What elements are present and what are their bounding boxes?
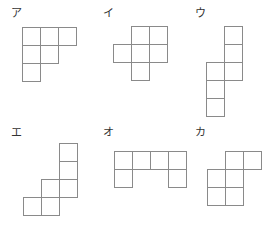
net-square bbox=[115, 170, 133, 188]
net-square bbox=[23, 64, 41, 82]
cube-net-5 bbox=[115, 152, 187, 188]
net-square bbox=[115, 152, 133, 170]
net-square bbox=[226, 188, 244, 206]
net-square bbox=[132, 27, 150, 45]
net-square bbox=[60, 144, 78, 162]
net-square bbox=[169, 170, 187, 188]
net-square bbox=[207, 99, 225, 117]
net-square bbox=[23, 28, 41, 46]
net-square bbox=[132, 45, 150, 63]
net-square bbox=[151, 152, 169, 170]
net-square bbox=[226, 152, 244, 170]
label-o: オ bbox=[103, 127, 114, 139]
net-square bbox=[60, 180, 78, 198]
net-square bbox=[59, 28, 77, 46]
net-square bbox=[41, 46, 59, 64]
net-square bbox=[150, 45, 168, 63]
net-square bbox=[244, 152, 262, 170]
label-u: ウ bbox=[195, 8, 206, 20]
label-ka: カ bbox=[195, 127, 206, 139]
net-square bbox=[133, 152, 151, 170]
net-square bbox=[226, 170, 244, 188]
label-e: エ bbox=[11, 127, 22, 139]
label-i: イ bbox=[103, 8, 114, 20]
net-square bbox=[23, 46, 41, 64]
cube-net-4 bbox=[24, 144, 78, 216]
net-square bbox=[225, 63, 243, 81]
net-square bbox=[150, 27, 168, 45]
net-square bbox=[114, 45, 132, 63]
net-square bbox=[225, 27, 243, 45]
net-square bbox=[60, 162, 78, 180]
net-square bbox=[169, 152, 187, 170]
net-square bbox=[207, 63, 225, 81]
net-square bbox=[41, 28, 59, 46]
net-square bbox=[42, 180, 60, 198]
cube-net-1 bbox=[23, 28, 77, 82]
net-square bbox=[225, 45, 243, 63]
cube-net-3 bbox=[207, 27, 243, 117]
net-square bbox=[42, 198, 60, 216]
cube-net-6 bbox=[208, 152, 262, 206]
net-square bbox=[132, 63, 150, 81]
net-square bbox=[24, 198, 42, 216]
cube-net-2 bbox=[114, 27, 168, 81]
net-square bbox=[207, 81, 225, 99]
net-square bbox=[208, 188, 226, 206]
label-a: ア bbox=[11, 8, 22, 20]
net-square bbox=[208, 170, 226, 188]
cube-net-diagram bbox=[0, 0, 274, 229]
